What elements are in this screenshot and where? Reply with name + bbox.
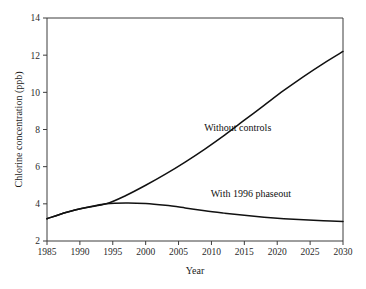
y-axis-title: Chlorine concentration (ppb) xyxy=(13,71,25,187)
chart-background xyxy=(0,0,366,289)
x-tick-label: 2000 xyxy=(136,247,155,257)
x-axis-title: Year xyxy=(186,265,205,276)
chlorine-concentration-line-chart: 2468101214 19851990199520002005201020152… xyxy=(0,0,366,289)
x-tick-label: 2030 xyxy=(334,247,353,257)
y-tick-label: 14 xyxy=(31,13,41,23)
x-tick-label: 2025 xyxy=(301,247,320,257)
chart-container: 2468101214 19851990199520002005201020152… xyxy=(0,0,366,289)
series-label: With 1996 phaseout xyxy=(211,188,291,199)
y-tick-label: 2 xyxy=(35,236,40,246)
series-label: Without controls xyxy=(204,122,271,133)
y-tick-label: 12 xyxy=(31,51,41,61)
x-tick-label: 2020 xyxy=(268,247,287,257)
y-tick-label: 6 xyxy=(35,162,40,172)
y-tick-label: 10 xyxy=(31,88,41,98)
y-tick-label: 4 xyxy=(35,199,40,209)
x-tick-label: 1985 xyxy=(38,247,57,257)
x-tick-label: 1990 xyxy=(70,247,89,257)
x-tick-label: 2010 xyxy=(202,247,221,257)
x-tick-label: 2005 xyxy=(169,247,188,257)
x-tick-label: 1995 xyxy=(103,247,122,257)
y-tick-label: 8 xyxy=(35,125,40,135)
x-tick-label: 2015 xyxy=(235,247,254,257)
